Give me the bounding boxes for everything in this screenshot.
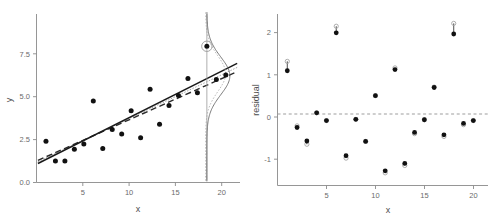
right-plot-canvas: -1 0 1 2 5 10 15 20 x residual xyxy=(248,0,496,217)
data-point xyxy=(119,132,124,137)
residual-point-filled xyxy=(285,68,290,73)
residual-point-filled xyxy=(402,161,407,166)
residual-point-filled xyxy=(393,67,398,72)
data-point xyxy=(129,108,134,113)
density-overlay xyxy=(206,12,230,181)
data-point xyxy=(223,72,228,77)
data-point xyxy=(195,90,200,95)
residual-point-filled xyxy=(334,30,339,35)
data-point xyxy=(100,146,105,151)
residual-point-filled xyxy=(324,118,329,123)
density-curve-dotted xyxy=(206,12,226,181)
residual-point-filled xyxy=(295,125,300,130)
right-xticklabel-1: 10 xyxy=(371,191,379,200)
residual-point-filled xyxy=(363,139,368,144)
residual-point-filled xyxy=(442,132,447,137)
data-point xyxy=(214,77,219,82)
data-point xyxy=(204,44,209,49)
residual-point-filled xyxy=(451,32,456,37)
right-yticklabel-1: 0 xyxy=(267,113,271,122)
right-xticklabel-3: 20 xyxy=(469,191,477,200)
left-plot-canvas: 0.0 2.5 5.0 7.5 5 10 15 20 x y xyxy=(0,0,248,217)
left-yticklabel-0: 0.0 xyxy=(20,178,30,187)
data-point xyxy=(62,158,67,163)
residual-point-filled xyxy=(471,118,476,123)
left-axes: 0.0 2.5 5.0 7.5 5 10 15 20 x y xyxy=(4,14,240,214)
residual-point-filled xyxy=(344,153,349,158)
right-yticklabel-0: -1 xyxy=(264,155,271,164)
data-point xyxy=(138,135,143,140)
residual-point-filled xyxy=(412,130,417,135)
left-xticklabel-1: 10 xyxy=(125,188,133,197)
right-yaxis-title: residual xyxy=(251,84,261,116)
residual-point-filled xyxy=(432,85,437,90)
left-yticklabel-2: 5.0 xyxy=(20,92,30,101)
data-point xyxy=(185,76,190,81)
residual-point-filled xyxy=(314,110,319,115)
panel-scatter-regression: 0.0 2.5 5.0 7.5 5 10 15 20 x y xyxy=(0,0,248,217)
data-point xyxy=(148,87,153,92)
left-yticklabel-1: 2.5 xyxy=(20,135,30,144)
right-yticklabel-2: 1 xyxy=(267,71,271,80)
left-xticklabel-3: 20 xyxy=(218,188,226,197)
density-curve-solid xyxy=(207,12,230,181)
right-yticklabel-3: 2 xyxy=(267,28,271,37)
data-point xyxy=(72,147,77,152)
data-point xyxy=(91,98,96,103)
residual-point-filled xyxy=(461,121,466,126)
data-point xyxy=(110,127,115,132)
data-point xyxy=(157,122,162,127)
right-xticklabel-2: 15 xyxy=(420,191,428,200)
right-xticklabel-0: 5 xyxy=(324,191,328,200)
residual-point-filled xyxy=(304,139,309,144)
residual-point-filled xyxy=(422,117,427,122)
residual-point-filled xyxy=(383,168,388,173)
left-xticklabel-2: 15 xyxy=(171,188,179,197)
data-point xyxy=(81,141,86,146)
right-residual-markers xyxy=(285,21,476,175)
data-point xyxy=(167,103,172,108)
right-xaxis-title: x xyxy=(386,205,391,215)
data-point xyxy=(43,139,48,144)
left-xticklabel-0: 5 xyxy=(81,188,85,197)
panel-residual-plot: -1 0 1 2 5 10 15 20 x residual xyxy=(248,0,496,217)
left-yaxis-title: y xyxy=(4,97,14,102)
left-xaxis-title: x xyxy=(136,204,141,214)
data-point xyxy=(176,93,181,98)
residual-point-filled xyxy=(373,93,378,98)
data-point xyxy=(53,158,58,163)
statistical-figure: 0.0 2.5 5.0 7.5 5 10 15 20 x y xyxy=(0,0,496,217)
left-yticklabel-3: 7.5 xyxy=(20,50,30,59)
residual-point-filled xyxy=(353,117,358,122)
